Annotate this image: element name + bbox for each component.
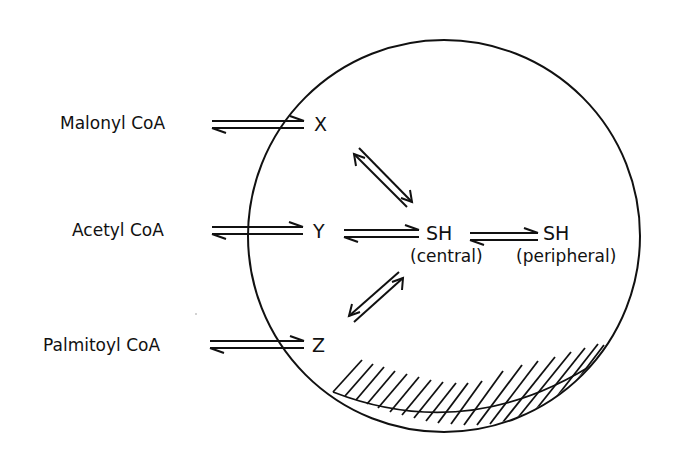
equilibrium-arrow-malonyl-x	[212, 116, 304, 133]
sh-peripheral-label: SH	[543, 222, 569, 244]
sh-central-caption: (central)	[410, 246, 483, 266]
palmitoyl-coa-label: Palmitoyl CoA	[43, 335, 160, 355]
equilibrium-arrow-palmitoyl-z	[210, 336, 304, 353]
diagram-svg: Malonyl CoA Acetyl CoA Palmitoyl CoA X Y…	[0, 0, 674, 452]
equilibrium-arrow-x-sh-central	[354, 148, 412, 207]
site-y-label: Y	[312, 220, 325, 242]
equilibrium-arrow-z-sh-central	[349, 272, 403, 322]
scan-speck	[195, 313, 197, 315]
hatched-region	[332, 344, 604, 425]
site-z-label: Z	[312, 334, 325, 356]
sh-peripheral-caption: (peripheral)	[516, 246, 616, 266]
diagram-canvas: Malonyl CoA Acetyl CoA Palmitoyl CoA X Y…	[0, 0, 674, 452]
equilibrium-arrow-y-sh-central	[344, 225, 419, 242]
acetyl-coa-label: Acetyl CoA	[72, 220, 164, 240]
sh-central-label: SH	[426, 222, 452, 244]
equilibrium-arrow-sh-central-peripheral	[470, 228, 538, 245]
equilibrium-arrow-acetyl-y	[212, 222, 303, 239]
site-x-label: X	[314, 113, 327, 135]
malonyl-coa-label: Malonyl CoA	[60, 113, 165, 133]
